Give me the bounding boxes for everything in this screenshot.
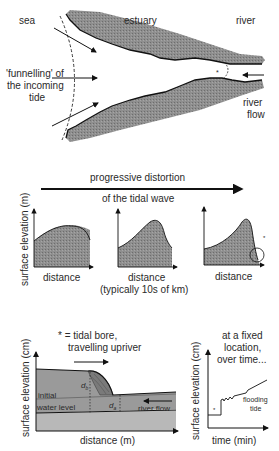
x-label-distance-2: distance <box>128 272 166 283</box>
x-sublabel-typical-scale: (typically 10s of km) <box>100 284 188 295</box>
bore-marker: * <box>216 69 219 76</box>
wave-chart-3: * distance <box>204 207 266 282</box>
flooding-label-2: tide <box>250 405 261 412</box>
y-axis-label-cm-time: surface elevation (cm) <box>190 342 201 440</box>
progressive-distortion-panel: progressive distortion of the tidal wave… <box>19 172 266 295</box>
bore-legend-2: travelling upriver <box>68 342 142 353</box>
time-title-1: at a fixed <box>222 330 263 341</box>
wave-chart-2: distance (typically 10s of km) <box>100 209 188 295</box>
x-label-distance-1: distance <box>43 272 81 283</box>
tidal-bore-cross-section: * = tidal bore, travelling upriver surfa… <box>20 330 178 446</box>
x-label-distance-3: distance <box>215 271 253 282</box>
label-river-flow-1: river <box>243 97 263 108</box>
label-estuary: estuary <box>124 15 157 26</box>
initial-label-1: initial <box>38 391 56 400</box>
y-axis-label-m: surface elevation (m) <box>19 193 30 286</box>
channel-bed <box>36 410 176 431</box>
label-sea: sea <box>19 15 36 26</box>
x-axis-label-distance-m: distance (m) <box>80 435 135 446</box>
bore-marker-time: * <box>213 407 216 413</box>
estuary-plan-view: sea estuary river 'funnelling' of the in… <box>6 10 266 142</box>
label-river: river <box>236 15 256 26</box>
time-title-2: location, <box>224 342 261 353</box>
wave-chart-1: distance <box>34 209 93 283</box>
label-funnelling-2: the incoming <box>7 80 64 91</box>
bore-front-dashed-arc <box>224 62 228 78</box>
initial-label-2: water level <box>36 403 75 412</box>
label-funnelling-1: 'funnelling' of <box>6 68 64 79</box>
bore-legend-1: * = tidal bore, <box>58 330 117 341</box>
lower-bank <box>66 78 264 142</box>
river-flow-label: river flow <box>138 404 170 413</box>
x-axis-label-time: time (min) <box>212 435 256 446</box>
time-title-3: over time... <box>217 354 266 365</box>
flooding-label-1: flooding <box>243 396 268 404</box>
bore-marker-chart3: * <box>263 235 266 241</box>
label-funnelling-3: tide <box>29 92 46 103</box>
fixed-location-time-series: at a fixed location, over time... surfac… <box>190 330 268 446</box>
tidal-bore-diagram: sea estuary river 'funnelling' of the in… <box>0 0 279 451</box>
distortion-title-1: progressive distortion <box>90 172 185 183</box>
y-axis-label-cm: surface elevation (cm) <box>20 339 31 437</box>
wave-shape-symmetric <box>34 225 90 267</box>
distortion-title-2: of the tidal wave <box>102 193 175 204</box>
label-river-flow-2: flow <box>247 109 266 120</box>
